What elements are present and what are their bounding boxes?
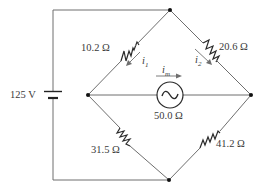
top-wire: [53, 10, 170, 91]
circuit-diagram: 125 V 10.2 Ω i1 20.6 Ω i2 31.5 Ω 41.2 Ω: [0, 0, 267, 194]
ac-meter-icon: [157, 82, 183, 108]
node-bottom: [167, 178, 171, 182]
resistor-r2: [170, 10, 251, 95]
outer-wires: [53, 10, 251, 180]
meter-label: 50.0 Ω: [154, 110, 183, 121]
r4-label: 41.2 Ω: [216, 138, 245, 149]
resistor-r3: [88, 95, 169, 180]
battery-icon: [44, 92, 62, 99]
i2-label: i2: [195, 54, 202, 68]
battery-label: 125 V: [10, 89, 36, 100]
i1-label: i1: [142, 55, 148, 69]
bottom-wire: [53, 99, 169, 180]
node-right: [249, 93, 253, 97]
r3-label: 31.5 Ω: [91, 144, 120, 155]
node-left: [86, 93, 90, 97]
r1-label: 10.2 Ω: [81, 42, 110, 53]
node-top: [168, 8, 172, 12]
r2-label: 20.6 Ω: [219, 41, 248, 52]
